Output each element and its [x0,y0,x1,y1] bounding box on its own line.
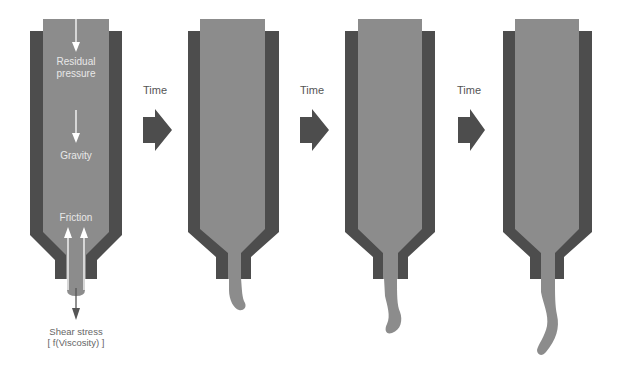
extrusion [537,278,558,355]
shear-stress-caption: Shear stress [ f(Viscosity) ] [36,326,116,348]
time-arrow-3 [458,109,485,151]
gravity-label: Gravity [50,150,102,162]
shear-stress-caption-line1: Shear stress [36,326,116,337]
extrusion [229,278,246,310]
residual-pressure-label-line2: pressure [50,68,102,80]
shear-stress-caption-line2: [ f(Viscosity) ] [36,337,116,348]
friction-label: Friction [50,212,102,224]
time-label-2: Time [300,84,324,96]
residual-pressure-label-line1: Residual [50,56,102,68]
time-label-1: Time [143,84,167,96]
syringe-stage-4 [503,19,592,355]
time-arrow-2 [300,109,329,151]
shear-stress-arrow-head [72,308,80,320]
time-arrow-1 [143,109,172,151]
time-label-3: Time [457,84,481,96]
extrusion [384,278,401,333]
syringe-stage-2 [188,19,279,310]
residual-pressure-label: Residual pressure [50,56,102,80]
syringe-stage-3 [345,19,435,333]
